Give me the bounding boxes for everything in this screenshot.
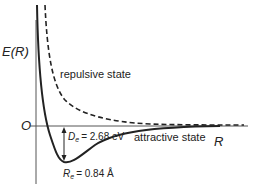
x-axis-label: R [214, 134, 223, 149]
re-value: = 0.84 Å [76, 167, 114, 179]
repulsive-state-curve [45, 5, 244, 125]
attractive-state-label: attractive state [134, 131, 206, 143]
de-label: De= 2.68 eV [68, 131, 125, 143]
y-axis-label: E(R) [2, 44, 29, 59]
de-subscript: e [75, 136, 79, 143]
re-symbol: R [63, 168, 70, 179]
de-symbol: D [68, 131, 75, 142]
repulsive-state-label: repulsive state [60, 68, 131, 80]
de-arrow-head-up [62, 127, 67, 133]
re-subscript: e [70, 173, 74, 180]
de-value: = 2.68 eV [81, 131, 124, 142]
origin-label: O [21, 118, 31, 133]
potential-energy-diagram: E(R) repulsive state O attractive state … [0, 0, 261, 192]
re-label: Re= 0.84 Å [63, 167, 114, 180]
